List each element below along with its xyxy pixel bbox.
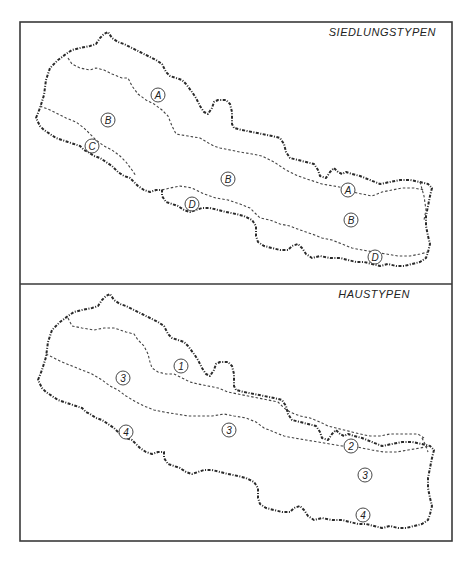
label-text: C bbox=[88, 141, 96, 152]
zone-boundary bbox=[420, 182, 426, 220]
region-label: D bbox=[185, 197, 199, 211]
zone-boundary bbox=[68, 58, 424, 196]
label-text: A bbox=[344, 185, 352, 196]
label-text: B bbox=[348, 215, 355, 226]
region-label: 3 bbox=[116, 371, 130, 385]
region-label: D bbox=[368, 250, 382, 264]
label-text: 2 bbox=[347, 441, 354, 452]
zone-boundary bbox=[46, 354, 430, 452]
map-figure: SIEDLUNGSTYPEN ABCBDABD HAUSTYPEN 134323… bbox=[0, 0, 468, 562]
panel-title: SIEDLUNGSTYPEN bbox=[329, 26, 436, 38]
panel-title: HAUSTYPEN bbox=[338, 288, 410, 300]
label-text: 4 bbox=[123, 427, 129, 438]
region-label: B bbox=[344, 213, 358, 227]
panel-haustypen: HAUSTYPEN 1343234 bbox=[38, 288, 434, 528]
region-label: A bbox=[341, 183, 355, 197]
label-text: D bbox=[188, 199, 195, 210]
region-label: 1 bbox=[174, 359, 188, 373]
region-label: A bbox=[151, 88, 165, 102]
region-label: 3 bbox=[358, 468, 372, 482]
figure-frame bbox=[20, 22, 452, 541]
region-label: 2 bbox=[344, 439, 358, 453]
region-label: B bbox=[221, 172, 235, 186]
region-label: B bbox=[101, 113, 115, 127]
label-text: 3 bbox=[226, 425, 232, 436]
label-text: B bbox=[105, 115, 112, 126]
country-border bbox=[38, 294, 434, 528]
panel-siedlungstypen: SIEDLUNGSTYPEN ABCBDABD bbox=[36, 26, 436, 266]
region-label: 4 bbox=[119, 425, 133, 439]
region-label: 3 bbox=[222, 423, 236, 437]
label-text: A bbox=[154, 90, 162, 101]
label-text: 3 bbox=[362, 470, 368, 481]
label-text: D bbox=[371, 252, 378, 263]
region-label: 4 bbox=[356, 508, 370, 522]
region-label: C bbox=[85, 139, 99, 153]
label-text: 3 bbox=[120, 373, 126, 384]
label-text: B bbox=[225, 174, 232, 185]
label-text: 4 bbox=[360, 510, 366, 521]
label-text: 1 bbox=[178, 361, 184, 372]
